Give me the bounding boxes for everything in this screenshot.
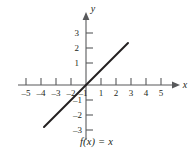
y-axis-arrow-icon bbox=[83, 12, 90, 20]
x-tick-label--4: –4 bbox=[36, 88, 47, 98]
figure-container: –5 –4 –3 –2 –1 1 2 3 4 5 3 2 1 –1 –2 –3 … bbox=[0, 0, 193, 165]
y-axis-label: y bbox=[90, 3, 96, 14]
figure-caption: f(x) = x bbox=[0, 136, 193, 147]
coordinate-plane: –5 –4 –3 –2 –1 1 2 3 4 5 3 2 1 –1 –2 –3 … bbox=[0, 0, 193, 145]
x-tick-label-1: 1 bbox=[99, 88, 104, 98]
y-tick-label--2: –2 bbox=[72, 110, 82, 120]
x-tick-label-3: 3 bbox=[129, 88, 134, 98]
y-tick-label-1: 1 bbox=[75, 58, 80, 68]
x-axis-ticks bbox=[26, 78, 161, 85]
x-axis-label: x bbox=[182, 79, 188, 90]
x-tick-label-2: 2 bbox=[114, 88, 119, 98]
x-axis-arrow-icon bbox=[172, 82, 180, 89]
x-tick-label--5: –5 bbox=[21, 88, 32, 98]
y-tick-label--3: –3 bbox=[72, 125, 83, 135]
y-tick-label-2: 2 bbox=[75, 43, 80, 53]
x-tick-label-4: 4 bbox=[144, 88, 149, 98]
y-tick-label-3: 3 bbox=[75, 28, 80, 38]
x-tick-label-5: 5 bbox=[159, 88, 164, 98]
x-tick-label--3: –3 bbox=[51, 88, 62, 98]
